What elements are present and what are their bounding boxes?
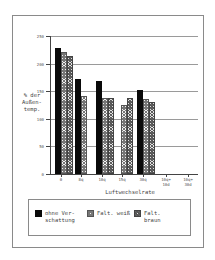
legend-label: Falt. weiß: [97, 210, 130, 217]
legend: ohne Ver- schattung Falt. weiß Falt. bra…: [28, 199, 191, 236]
legend-item-falt-weiss: Falt. weiß: [87, 210, 130, 217]
legend-label: Falt. braun: [144, 210, 161, 223]
x-tick-label: 10q: [92, 178, 112, 183]
y-axis-title: % der Außen- temp.: [16, 92, 48, 113]
bar: [108, 98, 114, 174]
x-tick-label: 0: [51, 178, 71, 183]
legend-label: ohne Ver- schattung: [45, 210, 75, 223]
legend-item-falt-braun: Falt. braun: [134, 210, 161, 223]
y-tick-label: 200: [24, 62, 44, 67]
x-tick-label: 15q: [112, 178, 132, 183]
legend-item-ohne-verschattung: ohne Ver- schattung: [35, 210, 75, 223]
legend-swatch-black: [35, 210, 42, 217]
legend-swatch-hatched-light: [87, 210, 94, 217]
y-axis: [50, 36, 51, 174]
y-tick-label: 50: [24, 144, 44, 149]
bar: [149, 102, 155, 174]
x-tick-label: 8q: [71, 178, 91, 183]
y-tick-label: 100: [24, 117, 44, 122]
legend-swatch-hatched-dark: [134, 210, 141, 217]
gridline: [50, 36, 198, 37]
y-tick-label: 250: [24, 34, 44, 39]
x-axis-title: Luftwechselrate: [90, 189, 170, 195]
x-tick-label: 10q+ 10d: [156, 178, 176, 187]
x-tick-label: 30q: [133, 178, 153, 183]
y-tick-label: 150: [24, 89, 44, 94]
bar: [127, 98, 133, 174]
bar: [67, 56, 73, 174]
bar: [81, 96, 87, 174]
y-tick-label: 0: [24, 172, 44, 177]
x-tick-label: 10q+ 30d: [178, 178, 198, 187]
x-axis: [50, 174, 198, 175]
